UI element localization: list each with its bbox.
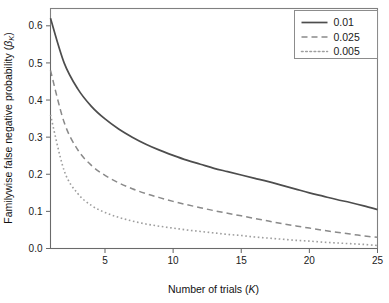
x-axis-title: Number of trials (K) — [168, 283, 259, 295]
x-tick-label: 25 — [372, 255, 384, 266]
y-tick-label: 0.1 — [29, 206, 43, 217]
line-chart-canvas: 0.00.10.20.30.40.50.6 510152025 0.010.02… — [0, 0, 389, 303]
y-tick-label: 0.4 — [29, 95, 43, 106]
y-tick-label: 0.0 — [29, 243, 43, 254]
chart-legend: 0.010.0250.005 — [295, 11, 378, 59]
x-tick-label: 5 — [102, 255, 108, 266]
y-tick-label: 0.3 — [29, 132, 43, 143]
x-tick-label: 20 — [304, 255, 316, 266]
x-tick-label: 10 — [168, 255, 180, 266]
y-tick-label: 0.5 — [29, 58, 43, 69]
legend-label-0-01: 0.01 — [334, 16, 355, 28]
y-tick-label: 0.6 — [29, 20, 43, 31]
x-tick-label: 15 — [236, 255, 248, 266]
y-tick-label: 0.2 — [29, 169, 43, 180]
chart-figure: 0.00.10.20.30.40.50.6 510152025 0.010.02… — [0, 0, 389, 303]
legend-label-0-005: 0.005 — [334, 45, 360, 57]
legend-label-0-025: 0.025 — [334, 31, 360, 43]
